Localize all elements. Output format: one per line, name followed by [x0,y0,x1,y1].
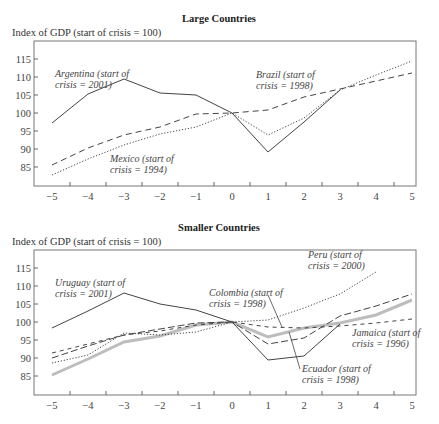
annotation-mexico: Mexico (start of crisis = 1994) [109,153,176,176]
svg-text:100: 100 [15,108,31,119]
y-axis-label: Index of GDP (start of crisis = 100) [12,236,162,248]
annotation-ecuador: Ecuador (start of crisis = 1998) [301,363,373,386]
svg-text:3: 3 [337,400,342,411]
svg-text:−4: −4 [82,400,94,411]
svg-text:105: 105 [15,90,31,101]
x-tick-labels: −5 −4 −3 −2 −1 0 1 2 3 4 5 [46,400,414,411]
svg-text:110: 110 [16,281,31,292]
annotation-colombia: Colombia (start of crisis = 1998) [209,287,285,310]
svg-text:−2: −2 [154,400,165,411]
svg-text:0: 0 [229,191,234,202]
chart-title: Large Countries [182,13,256,24]
y-axis-ticks [34,268,38,376]
svg-text:105: 105 [15,299,31,310]
svg-text:115: 115 [16,263,31,274]
svg-text:1: 1 [265,191,270,202]
y-axis-label: Index of GDP (start of crisis = 100) [12,27,162,39]
y-tick-labels: 115 110 105 100 95 90 85 [15,263,31,382]
svg-text:2: 2 [301,191,306,202]
svg-text:5: 5 [409,191,414,202]
svg-text:110: 110 [16,72,31,83]
svg-text:4: 4 [373,400,379,411]
x-tick-labels: −5 −4 −3 −2 −1 0 1 2 3 4 5 [46,191,414,202]
svg-text:90: 90 [21,144,32,155]
colombia-leader-line [268,295,282,327]
annotation-jamaica: Jamaica (start of crisis = 1996) [352,327,423,350]
svg-text:3: 3 [337,191,342,202]
y-axis-ticks [34,59,38,167]
x-axis-ticks [70,182,394,186]
annotation-peru: Peru (start of crisis = 2000) [307,249,365,272]
svg-text:90: 90 [21,353,32,364]
svg-text:−1: −1 [190,400,201,411]
x-axis-ticks [70,391,394,395]
svg-text:95: 95 [21,335,32,346]
svg-text:2: 2 [301,400,306,411]
annotation-brazil: Brazil (start of crisis = 1998) [256,69,317,92]
chart-title: Smaller Countries [178,222,260,233]
ecuador-leader-line [289,332,300,369]
chart-large-countries: Large Countries Index of GDP (start of c… [12,13,416,202]
svg-text:0: 0 [229,400,234,411]
svg-text:−2: −2 [154,191,165,202]
svg-text:5: 5 [409,400,414,411]
annotation-argentina: Argentina (start of crisis = 2001) [54,68,132,91]
figure: Large Countries Index of GDP (start of c… [0,0,439,424]
svg-text:95: 95 [21,126,32,137]
svg-text:−5: −5 [46,191,57,202]
svg-text:100: 100 [15,317,31,328]
svg-text:−1: −1 [190,191,201,202]
svg-text:−4: −4 [82,191,94,202]
svg-text:4: 4 [373,191,379,202]
svg-text:−5: −5 [46,400,57,411]
svg-text:85: 85 [21,162,32,173]
svg-text:115: 115 [16,54,31,65]
svg-text:−3: −3 [118,400,129,411]
chart-smaller-countries: Smaller Countries Index of GDP (start of… [12,222,423,411]
svg-text:−3: −3 [118,191,129,202]
svg-text:85: 85 [21,371,32,382]
svg-text:1: 1 [265,400,270,411]
y-tick-labels: 115 110 105 100 95 90 85 [15,54,31,173]
